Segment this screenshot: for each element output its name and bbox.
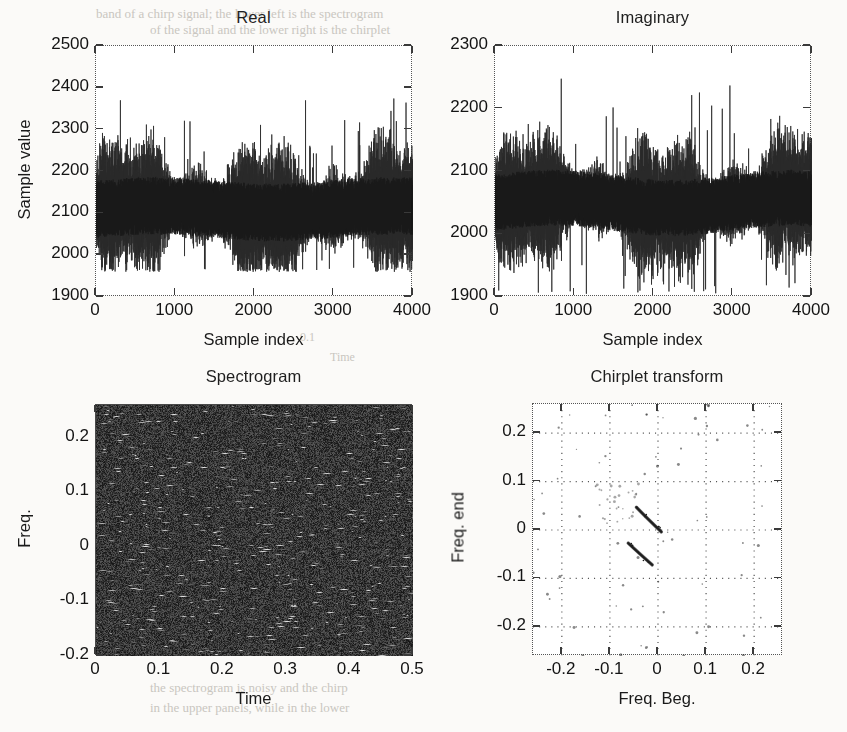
panel-chirplet: Chirplet transform-0.2-0.100.10.2-0.2-0.… (0, 0, 847, 732)
ytick-chirplet (533, 625, 540, 626)
ytick-chirplet (533, 480, 540, 481)
xtick-chirplet (704, 647, 705, 654)
ytick-chirplet (533, 431, 540, 432)
ytick-chirplet (533, 528, 540, 529)
yaxis-title-chirplet: Freq. end (449, 458, 468, 598)
plot-frame-chirplet (532, 403, 782, 655)
ytick-label-chirplet: -0.2 (448, 615, 526, 635)
xaxis-title-chirplet: Freq. Beg. (532, 689, 782, 708)
xtick-top-chirplet (704, 404, 705, 411)
ytick-right-chirplet (774, 577, 781, 578)
xtick-chirplet (608, 647, 609, 654)
ytick-right-chirplet (774, 625, 781, 626)
ytick-chirplet (533, 577, 540, 578)
ytick-right-chirplet (774, 431, 781, 432)
figure-canvas: band of a chirp signal; the lower left i… (0, 0, 847, 732)
xtick-chirplet (752, 647, 753, 654)
ytick-label-chirplet: 0.2 (448, 421, 526, 441)
ytick-right-chirplet (774, 480, 781, 481)
xtick-label-chirplet: 0.2 (708, 659, 798, 679)
xtick-chirplet (560, 647, 561, 654)
panel-title-chirplet: Chirplet transform (532, 367, 782, 386)
xtick-top-chirplet (560, 404, 561, 411)
xtick-top-chirplet (656, 404, 657, 411)
xtick-top-chirplet (752, 404, 753, 411)
xtick-top-chirplet (608, 404, 609, 411)
chirplet-points (533, 404, 783, 656)
ytick-right-chirplet (774, 528, 781, 529)
xtick-chirplet (656, 647, 657, 654)
